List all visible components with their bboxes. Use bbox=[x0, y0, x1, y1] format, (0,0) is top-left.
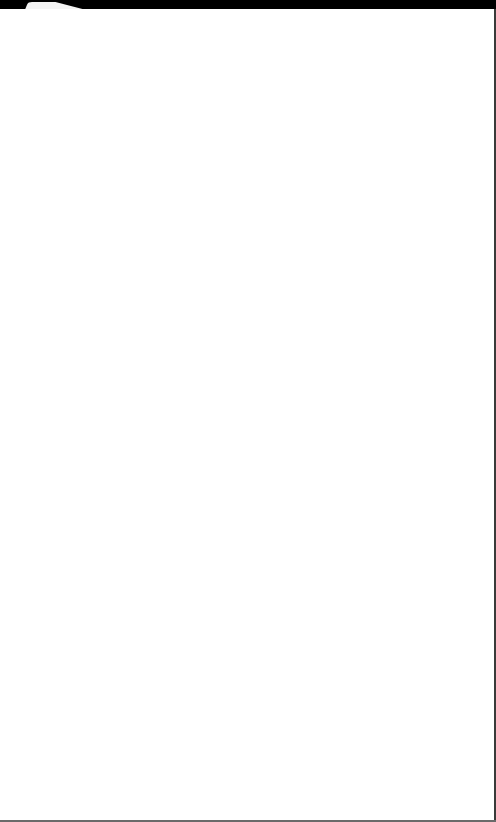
blank-page-content bbox=[0, 9, 495, 821]
